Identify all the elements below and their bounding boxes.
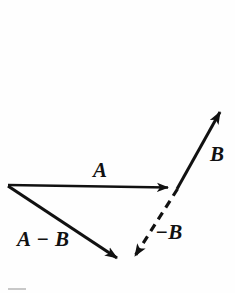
- vector-a-minus-b-label: A − B: [17, 229, 70, 250]
- vector-b-label: B: [210, 144, 225, 165]
- page-edge-mark: [8, 288, 26, 290]
- vector-a-line: [8, 185, 168, 188]
- vector-diagram-figure: A B −B A − B: [0, 0, 235, 293]
- vector-a-label: A: [93, 160, 108, 181]
- vector-negative-b-label: −B: [155, 222, 183, 243]
